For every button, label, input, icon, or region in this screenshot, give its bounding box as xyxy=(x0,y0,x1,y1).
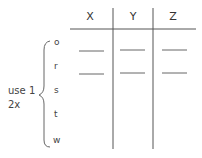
column-header-x: X xyxy=(80,10,100,23)
table-grid xyxy=(0,0,202,158)
column-header-z: Z xyxy=(163,10,183,23)
annotation-use-1: use 1 xyxy=(8,84,35,98)
row-label-o: o xyxy=(54,37,60,47)
row-label-w: w xyxy=(53,135,60,145)
row-label-t: t xyxy=(54,109,58,119)
row-label-s: s xyxy=(54,85,59,95)
row-label-r: r xyxy=(54,61,58,71)
curly-brace xyxy=(39,41,50,147)
column-header-y: Y xyxy=(123,10,143,23)
annotation-2x: 2x xyxy=(8,98,20,112)
